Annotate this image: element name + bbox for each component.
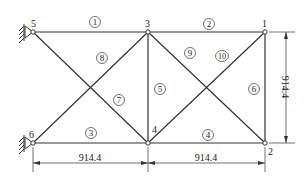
svg-text:9: 9 [188,48,193,58]
member-label-4: 4 [203,130,214,141]
member-label-5: 5 [155,84,166,95]
svg-text:5: 5 [158,84,163,94]
node-label-1: 1 [262,18,267,29]
dimension-text-right: 914.4 [195,152,218,163]
member-label-2: 2 [204,19,215,30]
svg-text:3: 3 [89,128,94,138]
dimension-text-vertical: 914.4 [280,76,291,99]
svg-text:2: 2 [207,19,212,29]
node-label-5: 5 [31,18,36,29]
svg-text:1: 1 [93,17,98,27]
node-label-3: 3 [145,18,150,29]
member-label-1: 1 [90,17,101,28]
truss-diagram: 5 3 1 6 4 2 1 2 3 4 5 6 7 8 9 10 [0,0,304,185]
member-label-8: 8 [97,53,108,64]
node-2 [263,141,267,145]
node-label-4: 4 [152,124,157,135]
member-label-9: 9 [185,48,196,59]
node-5 [31,30,35,34]
svg-text:7: 7 [117,95,122,105]
member-label-3: 3 [86,128,97,139]
member-label-6: 6 [249,84,260,95]
svg-text:4: 4 [206,130,211,140]
svg-text:8: 8 [100,53,105,63]
node-6 [31,141,35,145]
node-4 [146,141,150,145]
node-1 [263,30,267,34]
node-label-2: 2 [268,146,273,157]
svg-text:6: 6 [252,84,257,94]
member-label-7: 7 [114,95,125,106]
dimension-text-left: 914.4 [79,152,102,163]
svg-text:10: 10 [218,52,226,61]
node-label-6: 6 [29,129,34,140]
member-label-10: 10 [216,51,229,62]
node-3 [146,30,150,34]
